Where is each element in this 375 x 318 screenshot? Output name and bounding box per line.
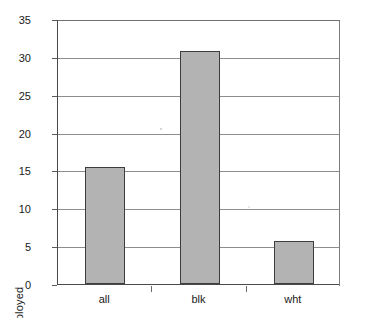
bar-blk bbox=[180, 51, 220, 284]
bar-wht bbox=[274, 241, 314, 284]
y-tick-label: 20 bbox=[3, 129, 31, 139]
bar-all bbox=[85, 167, 125, 284]
y-tick-mark bbox=[52, 171, 57, 172]
plot-right-border bbox=[339, 20, 340, 286]
scan-speckle-icon bbox=[248, 206, 250, 208]
y-tick-label: 30 bbox=[3, 53, 31, 63]
x-tick-mark bbox=[246, 286, 247, 292]
gridline bbox=[58, 20, 340, 21]
y-tick-label: 0 bbox=[3, 280, 31, 290]
y-tick-label: 5 bbox=[3, 242, 31, 252]
x-tick-mark bbox=[151, 286, 152, 292]
y-tick-mark bbox=[52, 96, 57, 97]
y-tick-mark bbox=[52, 20, 57, 21]
scan-speckle-icon bbox=[160, 128, 162, 130]
x-tick-label-wht: wht bbox=[258, 293, 328, 306]
y-tick-mark bbox=[52, 134, 57, 135]
y-tick-label: 35 bbox=[3, 15, 31, 25]
y-tick-mark bbox=[52, 247, 57, 248]
y-tick-mark bbox=[52, 209, 57, 210]
x-tick-label-blk: blk bbox=[164, 293, 234, 306]
y-tick-label: 25 bbox=[3, 91, 31, 101]
y-tick-label: 10 bbox=[3, 204, 31, 214]
y-tick-mark bbox=[52, 58, 57, 59]
bar-chart: Percent Unemployed 05101520253035 allblk… bbox=[0, 0, 375, 318]
y-tick-mark bbox=[52, 285, 57, 286]
x-tick-label-all: all bbox=[69, 293, 139, 306]
plot-area bbox=[57, 20, 340, 285]
y-tick-label: 15 bbox=[3, 166, 31, 176]
